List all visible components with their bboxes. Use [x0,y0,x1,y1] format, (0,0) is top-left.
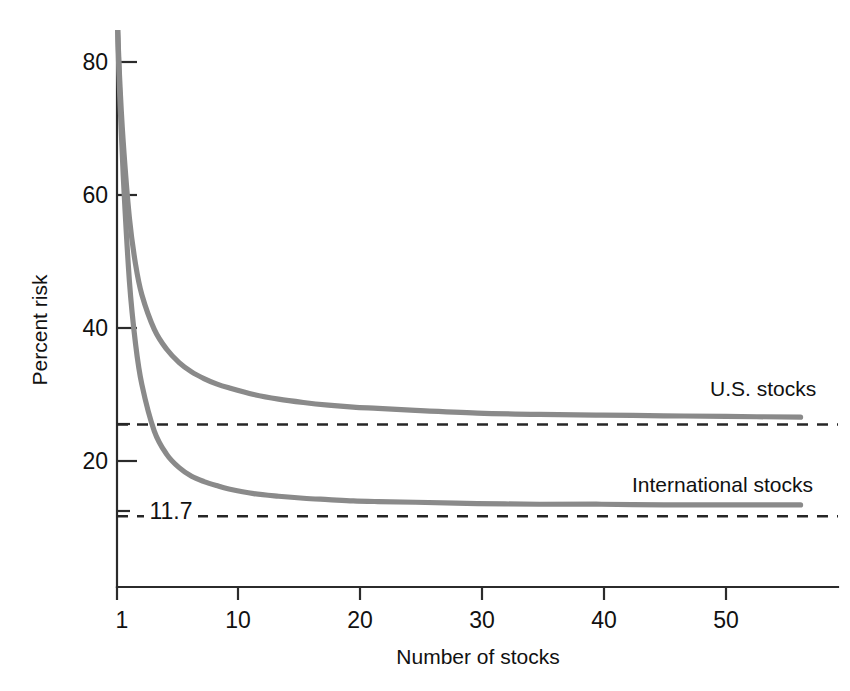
y-tick-label-60: 60 [82,182,108,208]
chart-canvas: 80 60 40 20 1 10 20 30 40 50 11.7 U.S. s… [0,0,850,691]
x-tick-labels: 1 10 20 30 40 50 [116,607,739,633]
y-tick-label-20: 20 [82,448,108,474]
x-axis-title: Number of stocks [396,645,559,668]
x-tick-label-40: 40 [591,607,617,633]
x-tick-label-30: 30 [469,607,495,633]
series-curve-u-s-stocks [117,9,801,417]
y-tick-label-80: 80 [82,49,108,75]
x-tick-label-10: 10 [225,607,251,633]
series-label-us-stocks: U.S. stocks [710,377,816,400]
risk-diversification-chart: 80 60 40 20 1 10 20 30 40 50 11.7 U.S. s… [0,0,850,691]
x-tick-marks [117,587,726,600]
y-tick-label-40: 40 [82,315,108,341]
annotation-11-7: 11.7 [149,498,192,524]
y-axis-title: Percent risk [28,274,51,385]
x-tick-label-20: 20 [347,607,373,633]
y-tick-labels: 80 60 40 20 [82,49,108,474]
series-curves [117,9,801,505]
series-labels: U.S. stocks International stocks [632,377,816,496]
series-curve-international-stocks [117,9,801,505]
series-label-international-stocks: International stocks [632,473,813,496]
x-tick-label-1: 1 [116,607,129,633]
x-tick-label-50: 50 [713,607,739,633]
